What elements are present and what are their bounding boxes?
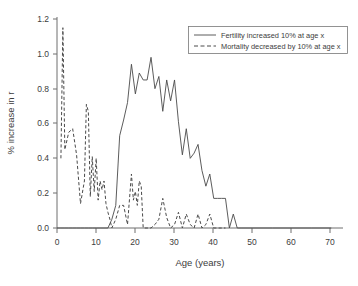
x-axis-title: Age (years) (175, 257, 224, 268)
y-axis-ticks: 0.0 0.2 0.4 0.6 0.8 1.0 1.2 (37, 14, 57, 233)
legend-label-mortality: Mortality decreased by 10% at age x (221, 42, 341, 51)
x-tick-label: 40 (208, 237, 218, 247)
series-line-mortality (61, 28, 226, 228)
y-tick-label: 0.4 (37, 153, 49, 163)
x-tick-label: 60 (286, 237, 296, 247)
y-tick-label: 1.0 (37, 49, 49, 59)
y-tick-label: 0.6 (37, 118, 49, 128)
x-tick-label: 50 (247, 237, 257, 247)
y-axis-title: % increase in r (5, 92, 16, 155)
y-tick-label: 1.2 (37, 14, 49, 24)
x-tick-label: 20 (130, 237, 140, 247)
x-tick-label: 70 (325, 237, 335, 247)
y-tick-label: 0.8 (37, 84, 49, 94)
x-axis-ticks: 0 10 20 30 40 50 60 70 (55, 228, 335, 247)
y-tick-label: 0.2 (37, 188, 49, 198)
y-tick-label: 0.0 (37, 223, 49, 233)
chart-legend: Fertility increased 10% at age x Mortali… (189, 27, 348, 54)
x-tick-label: 0 (55, 237, 60, 247)
chart-figure: 0.0 0.2 0.4 0.6 0.8 1.0 1.2 0 10 20 30 4… (0, 0, 358, 286)
x-tick-label: 10 (91, 237, 101, 247)
series-line-fertility (57, 57, 331, 228)
x-tick-label: 30 (169, 237, 179, 247)
line-chart: 0.0 0.2 0.4 0.6 0.8 1.0 1.2 0 10 20 30 4… (0, 0, 358, 286)
legend-label-fertility: Fertility increased 10% at age x (221, 31, 324, 40)
